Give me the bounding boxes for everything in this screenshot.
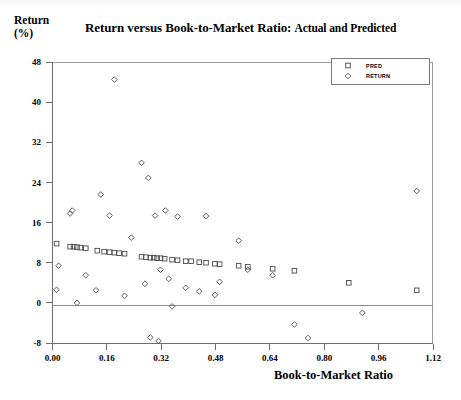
data-point-pred [175,258,180,263]
data-point-return [56,263,62,269]
legend-label-pred: PRED [366,63,382,69]
data-point-return [236,238,242,244]
y-tick-label: -8 [34,338,42,348]
x-tick-label: 0.16 [99,353,115,363]
data-point-return [74,300,80,306]
x-tick-label: 1.12 [425,353,441,363]
data-point-return [142,281,148,287]
data-point-return [148,335,154,341]
data-point-pred [189,259,194,264]
data-point-pred [292,268,297,273]
data-point-return [129,235,135,241]
data-point-pred [83,246,88,251]
data-point-return [166,276,172,282]
x-tick-label: 0.80 [316,353,332,363]
data-point-return [305,335,311,341]
scatter-plot-svg: 484032241680-8 0.000.160.320.480.640.800… [0,0,461,400]
data-point-pred [270,266,275,271]
chart-container: Return(%) Return versus Book-to-Market R… [0,0,461,400]
data-point-return [152,213,158,219]
data-point-pred [117,251,122,256]
y-tick-label: 24 [32,178,42,188]
data-point-pred [122,251,127,256]
data-point-return [169,304,175,310]
data-point-pred [236,263,241,268]
data-point-return [54,287,60,293]
data-point-return [414,188,420,194]
x-tick-label: 0.64 [262,353,278,363]
data-point-pred [68,244,73,249]
data-point-return [83,272,89,278]
series-return-markers [54,77,420,344]
data-point-pred [183,259,188,264]
x-tick-label: 0.32 [153,353,169,363]
x-tick-label: 0.48 [208,353,224,363]
data-point-pred [139,254,144,259]
data-point-return [292,322,298,328]
data-point-return [112,77,118,83]
y-tick-label: 16 [32,218,42,228]
data-point-pred [170,257,175,262]
data-point-return [183,285,189,291]
y-tick-label: 8 [37,258,42,268]
x-axis-ticks: 0.000.160.320.480.640.800.961.12 [45,344,442,364]
data-point-return [93,288,99,294]
data-point-return [158,267,164,273]
chart-legend: PREDRETURN [332,59,430,85]
y-tick-label: 0 [37,298,42,308]
x-tick-label: 0.96 [371,353,387,363]
data-point-return [196,289,202,295]
data-point-return [122,293,128,299]
data-point-return [360,310,366,316]
data-point-return [162,208,168,214]
x-axis-label: Book-to-Market Ratio [274,368,393,383]
legend-label-return: RETURN [366,73,390,79]
data-point-pred [144,255,149,260]
data-point-pred [217,262,222,267]
data-point-pred [112,250,117,255]
data-point-return [270,272,276,278]
data-point-pred [102,249,107,254]
y-tick-label: 48 [32,57,42,67]
data-point-return [107,213,113,219]
data-point-pred [107,250,112,255]
data-point-pred [148,255,153,260]
plot-frame [53,62,434,344]
data-point-pred [197,260,202,265]
data-point-return [212,292,218,298]
series-pred-markers [54,241,419,292]
data-point-pred [95,248,100,253]
y-tick-label: 40 [32,97,42,107]
data-point-pred [414,288,419,293]
data-point-return [146,175,152,181]
y-tick-label: 32 [32,137,42,147]
data-point-return [98,192,104,198]
data-point-return [156,338,162,344]
data-point-pred [213,261,218,266]
data-point-pred [346,280,351,285]
data-point-pred [204,260,209,265]
data-point-return [175,214,181,220]
x-tick-label: 0.00 [45,353,61,363]
data-point-pred [54,241,59,246]
data-point-return [139,160,145,166]
data-point-return [203,213,209,219]
y-axis-ticks: 484032241680-8 [32,57,53,348]
data-point-return [217,279,223,285]
